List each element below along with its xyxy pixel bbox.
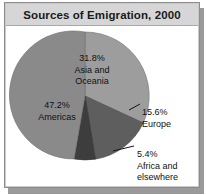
- americas-name: Americas: [20, 112, 94, 124]
- asia-and-oceania-name-line1: Asia and: [55, 65, 129, 77]
- chart-plot-area: 31.8% Asia and Oceania 47.2% Americas 15…: [6, 26, 198, 186]
- americas-percent: 47.2%: [20, 100, 94, 112]
- africa-and-elsewhere-name-line2: elsewhere: [137, 172, 178, 184]
- africa-and-elsewhere-callout-label: 5.4% Africa and elsewhere: [137, 149, 178, 184]
- europe-callout-label: 15.6% Europe: [142, 107, 171, 130]
- africa-and-elsewhere-percent: 5.4%: [137, 149, 178, 161]
- pie-slice-americas[interactable]: [9, 31, 85, 159]
- chart-title: Sources of Emigration, 2000: [23, 9, 180, 21]
- europe-name: Europe: [142, 119, 171, 131]
- europe-percent: 15.6%: [142, 107, 171, 119]
- africa-and-elsewhere-name-line1: Africa and: [137, 161, 178, 173]
- americas-slice-label: 47.2% Americas: [20, 100, 94, 123]
- asia-and-oceania-percent: 31.8%: [55, 53, 129, 65]
- chart-title-band: Sources of Emigration, 2000: [6, 4, 198, 26]
- asia-and-oceania-name-line2: Oceania: [55, 76, 129, 88]
- pie-chart-figure: Sources of Emigration, 2000 31.8% Asia a…: [0, 0, 206, 195]
- asia-and-oceania-slice-label: 31.8% Asia and Oceania: [55, 53, 129, 88]
